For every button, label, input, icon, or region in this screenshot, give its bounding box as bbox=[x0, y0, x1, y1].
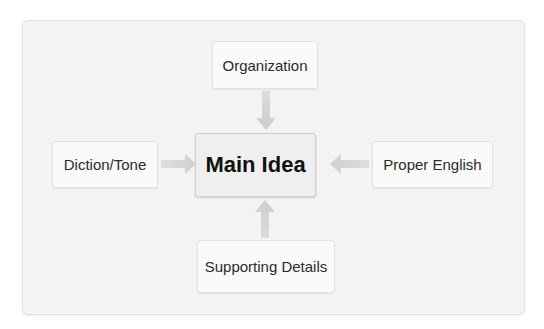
main-idea-label: Main Idea bbox=[205, 152, 305, 178]
node-supporting-details: Supporting Details bbox=[197, 240, 335, 293]
node-proper-english: Proper English bbox=[372, 141, 493, 188]
arrow-right-icon bbox=[161, 153, 197, 175]
node-supporting-details-label: Supporting Details bbox=[205, 258, 328, 275]
arrow-up-icon bbox=[254, 199, 276, 238]
node-organization: Organization bbox=[212, 41, 318, 89]
arrow-down-icon bbox=[255, 91, 277, 131]
node-diction-tone: Diction/Tone bbox=[52, 141, 158, 188]
node-proper-english-label: Proper English bbox=[383, 156, 481, 173]
node-diction-tone-label: Diction/Tone bbox=[64, 156, 147, 173]
arrow-left-icon bbox=[329, 153, 369, 175]
main-idea-node: Main Idea bbox=[195, 133, 316, 197]
node-organization-label: Organization bbox=[222, 57, 307, 74]
